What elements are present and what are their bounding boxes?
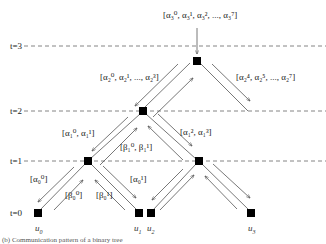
leaf-label-u2: u2 xyxy=(147,223,155,235)
message-t1-beta1: [β₀¹] xyxy=(96,190,112,200)
message-t1-beta0: [β₀⁰] xyxy=(65,190,82,200)
level-label-t3: t=3 xyxy=(10,41,22,51)
node-t2 xyxy=(139,107,147,115)
message-t2-beta: [β₁⁰, β₁¹] xyxy=(120,142,152,152)
leaf-label-u0: u0 xyxy=(35,223,43,235)
message-t1-right: [α₀¹] xyxy=(130,174,147,184)
message-top-input: [α₃⁰, α₃¹, α₃², ..., α₃⁷] xyxy=(163,10,237,20)
node-t1-right xyxy=(195,157,203,165)
message-t1-left: [α₀⁰] xyxy=(30,174,47,184)
level-label-t1: t=1 xyxy=(10,156,22,166)
node-t1-left xyxy=(84,157,92,165)
level-label-t0: t=0 xyxy=(10,208,22,218)
figure-caption: (b) Communication pattern of a binary tr… xyxy=(2,236,123,244)
leaf-label-u1: u1 xyxy=(134,223,142,235)
node-u0 xyxy=(34,209,42,217)
message-t3-right: [α₂⁴, α₂⁵, ..., α₂⁷] xyxy=(236,72,295,82)
node-root xyxy=(193,57,201,65)
message-t3-left: [α₂⁰, α₂¹, ..., α₂³] xyxy=(100,72,159,82)
leaf-label-u3: u3 xyxy=(248,223,256,235)
node-u1 xyxy=(135,209,143,217)
node-u2 xyxy=(147,209,155,217)
message-t2-right: [α₁², α₁³] xyxy=(180,127,212,137)
node-u3 xyxy=(247,209,255,217)
level-lines xyxy=(24,46,326,161)
message-t2-left: [α₁⁰, α₁¹] xyxy=(62,128,95,138)
level-label-t2: t=2 xyxy=(10,106,22,116)
